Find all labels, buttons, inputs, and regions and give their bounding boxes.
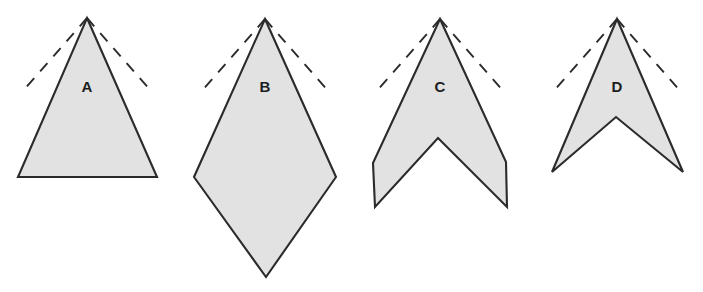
shape-a-label: A: [82, 78, 93, 95]
shape-b-label: B: [260, 78, 271, 95]
shape-d-label: D: [612, 78, 623, 95]
shape-c-label: C: [435, 78, 446, 95]
shapes-figure: A B C D: [0, 0, 703, 292]
figure-container: A B C D: [0, 0, 703, 292]
